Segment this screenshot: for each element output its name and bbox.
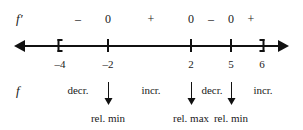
derivative-sign-zero-1: 0 [105,13,111,25]
behavior-increasing-2: incr. [253,85,272,96]
tick-mark-5 [230,39,232,52]
arrow-head-down-icon [187,98,195,105]
arrow-head-down-icon [227,98,235,105]
endpoint-bracket-close-6 [260,39,265,52]
extremum-label-rel-min-2: rel. min [214,113,248,124]
tick-label-6: 6 [259,59,265,70]
extremum-label-rel-max: rel. max [173,113,209,124]
derivative-sign-positive-2: + [248,13,255,25]
extremum-pointer-arrow-5 [226,82,237,106]
tick-label-minus4: –4 [55,59,66,70]
arrow-shaft [108,82,109,99]
derivative-sign-negative-1: – [75,13,81,25]
behavior-decreasing-2: decr. [201,85,222,96]
extremum-pointer-arrow-minus2 [103,82,114,106]
axis-arrow-left-icon [14,40,25,52]
arrow-shaft [191,82,192,99]
axis-arrow-right-icon [278,40,289,52]
function-label-letter: f [16,83,20,98]
extremum-label-rel-min-1: rel. min [91,113,125,124]
arrow-shaft [231,82,232,99]
endpoint-bracket-open-minus4 [58,39,63,52]
function-label: f [16,84,20,97]
tick-mark-minus2 [107,39,109,52]
arrow-head-down-icon [104,98,112,105]
behavior-decreasing-1: decr. [67,85,88,96]
behavior-increasing-1: incr. [141,85,160,96]
tick-label-minus2: –2 [103,59,114,70]
derivative-function-label: f′ [16,12,22,25]
tick-label-5: 5 [228,59,234,70]
derivative-sign-zero-2: 0 [188,13,194,25]
tick-label-2: 2 [188,59,194,70]
extremum-pointer-arrow-2 [186,82,197,106]
derivative-sign-zero-3: 0 [228,13,234,25]
tick-mark-2 [190,39,192,52]
derivative-sign-positive-1: + [148,13,155,25]
number-line-axis [25,45,287,47]
sign-chart: f′ – 0 + 0 – 0 + –4 –2 2 5 6 f decr. inc… [0,0,303,130]
derivative-sign-negative-2: – [208,13,214,25]
prime-symbol: ′ [20,11,23,26]
